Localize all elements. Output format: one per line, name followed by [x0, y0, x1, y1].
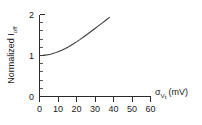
- y-tick-label-2: 2: [29, 10, 34, 20]
- svg-text:Normalized Ioff: Normalized Ioff: [6, 26, 18, 84]
- x-tick-label-20: 20: [71, 104, 81, 114]
- x-tick-label-30: 30: [90, 104, 100, 114]
- x-axis-title-units: (mV): [168, 87, 188, 97]
- y-tick-label-1: 1: [29, 51, 34, 61]
- chart-figure: 0 1 2 0 10 20 30 40 50 60 Normalized Iof…: [0, 0, 202, 125]
- y-axis-title: Normalized Ioff: [6, 26, 18, 84]
- x-tick-label-40: 40: [108, 104, 118, 114]
- y-axis-title-main: Normalized I: [6, 33, 16, 84]
- x-tick-label-10: 10: [53, 104, 63, 114]
- x-tick-label-0: 0: [37, 104, 42, 114]
- x-tick-label-50: 50: [127, 104, 137, 114]
- y-tick-label-0: 0: [29, 92, 34, 102]
- chart-plot-area: 0 1 2 0 10 20 30 40 50 60 Normalized Iof…: [0, 0, 202, 125]
- y-axis-title-subscript: off: [11, 26, 18, 33]
- x-axis-title-subscript-t: t: [165, 93, 167, 100]
- x-tick-label-60: 60: [145, 104, 155, 114]
